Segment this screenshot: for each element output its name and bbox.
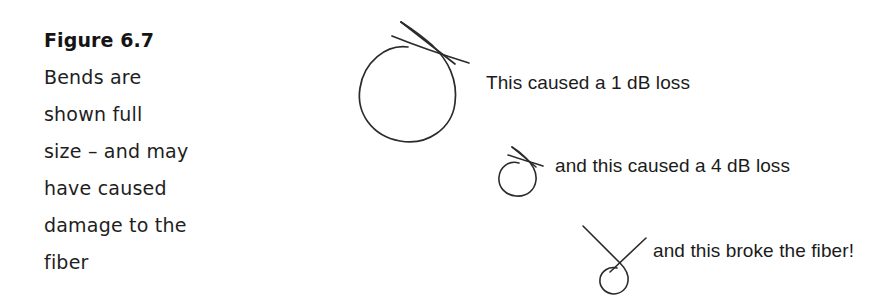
annotation-label-1db-loss: This caused a 1 dB loss — [486, 72, 690, 94]
figure-illustration: Figure 6.7 Bends are shown full size – a… — [0, 0, 869, 301]
figure-caption-title: Figure 6.7 — [44, 22, 259, 59]
figure-caption-line-5: damage to the — [44, 207, 259, 244]
small-fiber-loop-icon — [499, 147, 543, 196]
annotation-label-4db-loss: and this caused a 4 dB loss — [555, 155, 790, 177]
figure-caption: Figure 6.7 Bends are shown full size – a… — [44, 22, 259, 281]
broken-fiber-loop-icon — [583, 226, 646, 294]
large-fiber-loop-icon — [359, 22, 469, 142]
figure-caption-line-4: have caused — [44, 170, 259, 207]
annotation-label-broken-fiber: and this broke the fiber! — [653, 240, 854, 262]
figure-caption-line-3: size – and may — [44, 133, 259, 170]
figure-caption-line-1: Bends are — [44, 59, 259, 96]
figure-caption-line-6: fiber — [44, 244, 259, 281]
figure-caption-line-2: shown full — [44, 96, 259, 133]
